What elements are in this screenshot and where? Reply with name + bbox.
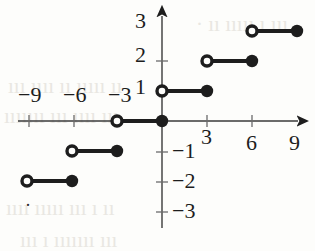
stray-ink-mark: · [25, 196, 31, 214]
x-tick-label-9: 9 [289, 132, 300, 154]
closed-endpoint-dot [156, 115, 168, 127]
x-tick-label-neg6: −6 [63, 84, 86, 106]
x-tick-label-3: 3 [201, 126, 212, 148]
closed-endpoint-dot [201, 85, 213, 97]
y-tick-label-neg2: −2 [172, 170, 195, 192]
y-tick-label-1: 1 [135, 76, 146, 98]
y-tick-label-neg1: −1 [172, 140, 195, 162]
closed-endpoint-dot [291, 25, 303, 37]
open-endpoint-circle [22, 176, 32, 186]
closed-endpoint-dot [246, 55, 258, 67]
open-endpoint-circle [112, 116, 122, 126]
y-tick-label-3: 3 [135, 10, 146, 32]
x-tick-label-neg3: −3 [108, 84, 131, 106]
open-endpoint-circle [247, 26, 257, 36]
open-endpoint-circle [157, 86, 167, 96]
y-tick-label-2: 2 [135, 44, 146, 66]
x-tick-label-6: 6 [246, 132, 257, 154]
closed-endpoint-dot [66, 175, 78, 187]
y-tick-label-neg3: −3 [172, 200, 195, 222]
open-endpoint-circle [202, 56, 212, 66]
closed-endpoint-dot [111, 145, 123, 157]
x-tick-label-neg9: −9 [18, 84, 41, 106]
open-endpoint-circle [67, 146, 77, 156]
